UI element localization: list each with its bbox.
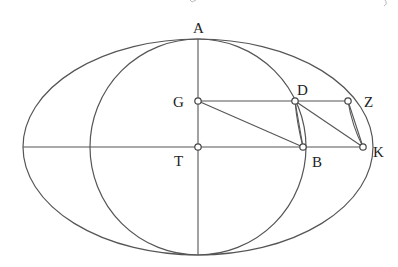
diagram-svg: A G T D Z B K	[0, 0, 398, 267]
label-B: B	[312, 154, 322, 170]
point-K	[360, 144, 366, 150]
label-G: G	[173, 94, 184, 110]
point-D	[292, 98, 298, 104]
point-G	[195, 98, 201, 104]
label-T: T	[174, 153, 183, 169]
label-A: A	[193, 20, 204, 36]
point-B	[300, 144, 306, 150]
segment-GB	[198, 101, 303, 147]
point-Z	[345, 98, 351, 104]
label-Z: Z	[364, 94, 373, 110]
point-T	[195, 144, 201, 150]
label-K: K	[373, 144, 384, 160]
diagram-canvas: A G T D Z B K	[0, 0, 398, 267]
cropped-text-remnant	[0, 0, 398, 6]
label-D: D	[297, 82, 308, 98]
